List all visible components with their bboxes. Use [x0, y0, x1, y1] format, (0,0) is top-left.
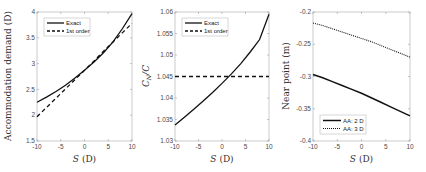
y-tick-label: 4: [31, 8, 35, 15]
y-tick-label: -0.2: [300, 8, 312, 15]
legend-aa3-label: AA: 3 D: [343, 126, 364, 132]
x-axis-label-3: S (D): [350, 154, 373, 164]
legend-aa2-label: AA: 2 D: [343, 118, 364, 124]
y-tick-label: 3.5: [26, 34, 35, 41]
x-tick-label: 5: [106, 143, 110, 150]
legend-3: AA: 2 D AA: 3 D: [320, 115, 366, 134]
y-axis-label-3: Near point (m): [281, 42, 291, 110]
x-tick-label: -5: [334, 143, 340, 150]
x-tick-label: 0: [220, 143, 224, 150]
legend-2: Exact 1st order: [182, 18, 228, 36]
y-axis-label-1: Accommodation demand (D): [3, 11, 13, 142]
y-tick-label: 3: [31, 60, 35, 67]
y-tick-label: 2: [31, 111, 35, 118]
y-tick-label: 1.03: [160, 137, 173, 144]
y-tick-label: 1.5: [26, 137, 35, 144]
panel-accommodation-demand: -10-505101.522.533.54 Exact 1st order S …: [3, 8, 136, 164]
x-tick-label: 5: [384, 143, 388, 150]
y-tick-label: 1.035: [157, 116, 174, 123]
x-tick-label: 0: [360, 143, 364, 150]
x-tick-label: 10: [128, 143, 136, 150]
y-tick-label: 1.045: [157, 73, 174, 80]
x-axis-label-2: S (D): [210, 154, 233, 164]
x-tick-label: 5: [244, 143, 248, 150]
y-tick-label: 2.5: [26, 86, 35, 93]
y-tick-label: 1.04: [160, 94, 173, 101]
y-tick-label: 1.06: [160, 8, 173, 15]
legend-exact-label: Exact: [204, 20, 219, 26]
legend-exact-label: Exact: [66, 20, 81, 26]
x-tick-label: 0: [83, 143, 87, 150]
x-axis-label-1: S (D): [73, 154, 96, 164]
figure: -10-505101.522.533.54 Exact 1st order S …: [0, 0, 426, 172]
y-axis-label-2: CN/C: [141, 65, 152, 87]
panel-near-point: -10-50510-0.4-0.35-0.3-0.25-0.2 AA: 2 D …: [281, 8, 414, 164]
x-tick-label: -5: [196, 143, 202, 150]
legend-first-order-label: 1st order: [66, 28, 90, 34]
y-tick-label: -0.4: [300, 137, 312, 144]
panel-cn-over-c: -10-505101.031.0351.041.0451.051.0551.06…: [141, 8, 273, 164]
x-tick-label: 10: [265, 143, 273, 150]
y-tick-label: 1.05: [160, 51, 173, 58]
y-tick-label: 1.055: [157, 30, 174, 37]
y-tick-label: -0.35: [296, 105, 311, 112]
x-tick-label: 10: [406, 143, 414, 150]
x-tick-label: -5: [58, 143, 64, 150]
legend-1: Exact 1st order: [44, 18, 90, 36]
legend-first-order-label: 1st order: [204, 28, 228, 34]
y-tick-label: -0.25: [296, 40, 311, 47]
y-tick-label: -0.3: [300, 73, 312, 80]
